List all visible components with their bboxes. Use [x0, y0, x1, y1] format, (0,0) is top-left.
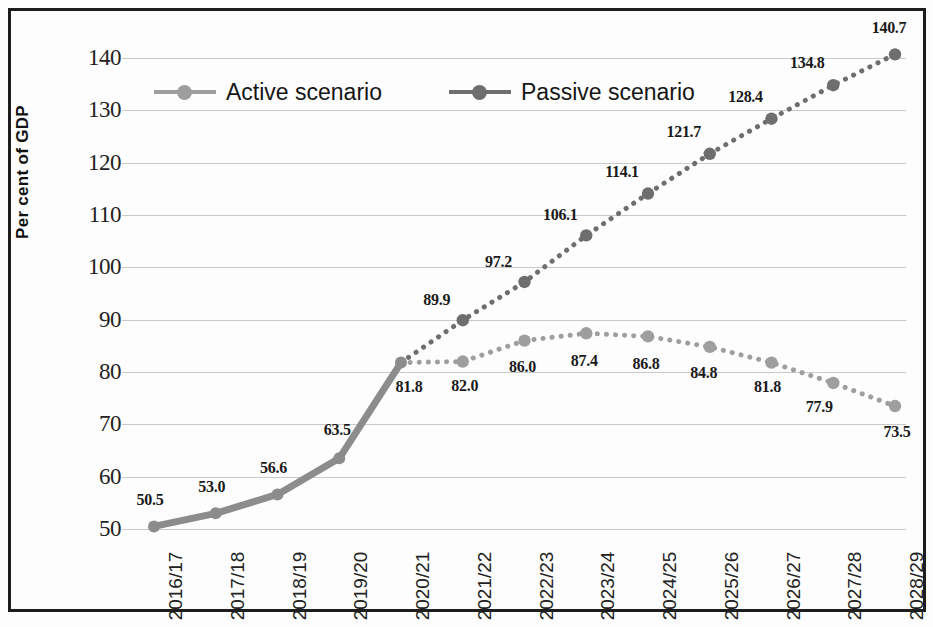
x-axis-tick-text: 2017/18	[227, 552, 249, 621]
data-point-label: 50.5	[137, 491, 164, 509]
legend-dot-icon	[177, 85, 192, 100]
data-point-label: 97.2	[485, 253, 512, 271]
chart-legend: Active scenarioPassive scenario	[154, 76, 774, 108]
data-point-marker	[765, 356, 777, 368]
gridline	[122, 529, 906, 530]
data-point-label: 87.4	[571, 352, 598, 370]
data-point-label: 53.0	[198, 478, 225, 496]
data-point-marker	[642, 330, 654, 342]
data-point-label: 140.7	[872, 19, 907, 37]
x-axis-tick-text: 2020/21	[412, 552, 434, 621]
legend-label: Active scenario	[226, 79, 382, 106]
y-axis-ticks: 1401301201101009080706050	[59, 58, 121, 529]
y-axis-title: Per cent of GDP	[13, 105, 33, 239]
y-axis-tick-label: 130	[88, 97, 121, 123]
data-point-marker	[518, 334, 530, 346]
x-axis-tick-text: 2025/26	[721, 552, 743, 621]
data-point-label: 86.0	[509, 358, 536, 376]
history-point-marker	[272, 488, 284, 500]
data-point-label: 77.9	[806, 398, 833, 416]
x-axis-tick-text: 2027/28	[845, 552, 867, 621]
x-axis-tick-text: 2026/27	[783, 552, 805, 621]
x-axis-tick-text: 2021/22	[474, 552, 496, 621]
data-point-label: 63.5	[324, 421, 351, 439]
data-point-label: 86.8	[633, 355, 660, 373]
data-point-marker	[457, 314, 469, 326]
y-axis-tick-label: 100	[88, 254, 121, 280]
legend-label: Passive scenario	[521, 79, 695, 106]
x-axis-tick-label: 2018/19	[266, 541, 290, 597]
x-axis-tick-label: 2024/25	[636, 541, 660, 597]
data-point-marker	[889, 48, 901, 60]
history-point-marker	[210, 507, 222, 519]
x-axis-tick-label: 2022/23	[513, 541, 537, 597]
legend-marker-icon	[449, 85, 511, 99]
x-axis-tick-label: 2028/29	[883, 541, 907, 597]
data-point-marker	[518, 276, 530, 288]
x-axis-tick-text: 2022/23	[536, 552, 558, 621]
y-axis-tick-label: 50	[99, 516, 121, 542]
chart-frame: Per cent of GDP 140130120110100908070605…	[8, 8, 926, 612]
data-point-label: 73.5	[884, 423, 911, 441]
data-point-marker	[827, 377, 839, 389]
x-axis-tick-label: 2027/28	[821, 541, 845, 597]
x-axis-tick-text: 2016/17	[165, 552, 187, 621]
data-point-label: 84.8	[690, 364, 717, 382]
data-point-marker	[889, 400, 901, 412]
data-point-label: 82.0	[451, 377, 478, 395]
data-point-marker	[580, 327, 592, 339]
data-point-label: 134.8	[790, 54, 825, 72]
data-point-label: 81.8	[396, 378, 423, 396]
y-axis-tick-label: 140	[88, 45, 121, 71]
x-axis-tick-text: 2018/19	[289, 552, 311, 621]
history-point-marker	[333, 452, 345, 464]
chart-figure: Per cent of GDP 140130120110100908070605…	[0, 0, 933, 627]
x-axis-tick-label: 2020/21	[389, 541, 413, 597]
data-point-marker	[827, 79, 839, 91]
y-axis-tick-label: 80	[99, 359, 121, 385]
data-point-label: 89.9	[423, 291, 450, 309]
plot-area: 50.553.056.663.581.889.997.2106.1114.112…	[154, 58, 895, 529]
legend-marker-icon	[154, 85, 216, 99]
data-point-label: 106.1	[543, 206, 578, 224]
x-axis-ticks: 2016/172017/182018/192019/202020/212021/…	[154, 541, 895, 627]
x-axis-tick-label: 2021/22	[451, 541, 475, 597]
data-point-marker	[704, 341, 716, 353]
x-axis-tick-label: 2016/17	[142, 541, 166, 597]
x-axis-tick-text: 2023/24	[598, 552, 620, 621]
y-axis-tick-label: 120	[88, 150, 121, 176]
x-axis-tick-text: 2019/20	[351, 552, 373, 621]
data-point-marker	[457, 355, 469, 367]
y-axis-tick-label: 110	[89, 202, 121, 228]
data-point-marker	[580, 229, 592, 241]
y-axis-tick-label: 90	[99, 307, 121, 333]
x-axis-tick-label: 2019/20	[327, 541, 351, 597]
legend-item-passive-scenario[interactable]: Passive scenario	[449, 76, 695, 108]
history-point-marker	[148, 520, 160, 532]
data-point-label: 121.7	[666, 123, 701, 141]
history-line	[154, 363, 401, 527]
data-point-label: 81.8	[754, 378, 781, 396]
y-axis-tick-label: 60	[99, 464, 121, 490]
x-axis-tick-text: 2028/29	[906, 552, 928, 621]
series-canvas	[154, 58, 895, 529]
data-point-marker	[704, 148, 716, 160]
x-axis-tick-label: 2026/27	[760, 541, 784, 597]
x-axis-tick-label: 2025/26	[698, 541, 722, 597]
y-axis-tick-label: 70	[99, 411, 121, 437]
data-point-marker	[765, 113, 777, 125]
data-point-label: 114.1	[605, 163, 639, 181]
history-point-marker	[395, 357, 407, 369]
legend-item-active-scenario[interactable]: Active scenario	[154, 76, 382, 108]
x-axis-tick-text: 2024/25	[659, 552, 681, 621]
x-axis-tick-label: 2023/24	[574, 541, 598, 597]
x-axis-tick-label: 2017/18	[204, 541, 228, 597]
data-point-marker	[642, 187, 654, 199]
legend-dot-icon	[472, 85, 487, 100]
data-point-label: 56.6	[260, 459, 287, 477]
